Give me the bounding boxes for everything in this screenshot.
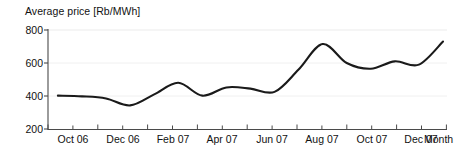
line-chart: Average price [Rb/MWh] 800 600 400 200	[0, 0, 463, 166]
x-axis-title: Month	[424, 134, 453, 145]
x-tick-label-0: Oct 06	[58, 134, 89, 145]
x-tick-label-6: Oct 07	[357, 134, 388, 145]
x-tick-label-2: Feb 07	[157, 134, 190, 145]
x-tick-label-3: Apr 07	[207, 134, 238, 145]
x-tick-label-1: Dec 06	[106, 134, 139, 145]
x-tick-label-4: Jun 07	[256, 134, 288, 145]
x-tick-label-5: Aug 07	[305, 134, 338, 145]
y-axis-line	[44, 29, 48, 130]
x-axis-line	[48, 125, 447, 130]
